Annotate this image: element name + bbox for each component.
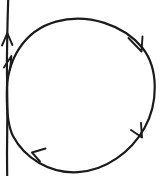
figure-canvas <box>0 0 160 176</box>
diagram-svg <box>0 0 160 176</box>
circle-arrowhead-lower-right-icon <box>131 123 142 138</box>
